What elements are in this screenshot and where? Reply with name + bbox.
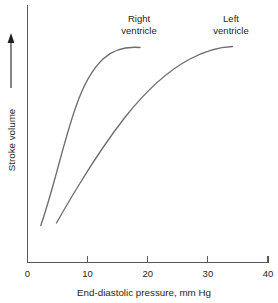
right-ventricle-label-line1: Right xyxy=(128,13,151,24)
left-ventricle-label-line1: Left xyxy=(223,13,239,24)
annotation-right-ventricle: Right ventricle xyxy=(121,13,156,36)
x-axis-title: End-diastolic pressure, mm Hg xyxy=(77,287,211,298)
y-axis-arrow-icon xyxy=(8,33,15,43)
annotation-left-ventricle: Left ventricle xyxy=(213,13,248,36)
curve-right-ventricle xyxy=(41,47,140,225)
x-axis-tick-labels: 0 10 20 30 40 xyxy=(25,268,273,279)
chart-canvas: 0 10 20 30 40 End-diastolic pressure, mm… xyxy=(0,0,278,303)
x-tick-label-40: 40 xyxy=(263,268,274,279)
x-tick-label-30: 30 xyxy=(203,268,214,279)
x-tick-label-0: 0 xyxy=(25,268,30,279)
x-axis-ticks xyxy=(28,256,269,263)
chart-figure: 0 10 20 30 40 End-diastolic pressure, mm… xyxy=(0,0,278,303)
curve-left-ventricle xyxy=(57,47,233,224)
left-ventricle-label-line2: ventricle xyxy=(213,25,248,36)
x-tick-label-10: 10 xyxy=(82,268,93,279)
y-axis-title-group: Stroke volume xyxy=(6,33,17,171)
y-axis-title: Stroke volume xyxy=(6,108,17,171)
right-ventricle-label-line2: ventricle xyxy=(121,25,156,36)
x-tick-label-20: 20 xyxy=(143,268,154,279)
